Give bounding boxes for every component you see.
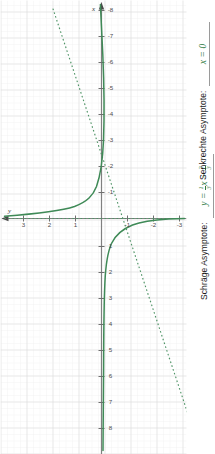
svg-text:8: 8: [108, 424, 112, 431]
svg-text:-7: -7: [107, 32, 113, 39]
svg-text:1: 1: [73, 221, 77, 228]
svg-text:-5: -5: [107, 84, 113, 91]
svg-text:-1: -1: [124, 221, 130, 228]
svg-text:-8: -8: [107, 6, 113, 13]
oblique-asymptote-label: Schräge Asymptote:: [199, 222, 209, 300]
x-axis-label-text: x: [90, 5, 95, 13]
plot-area: 8 7 6 5 4 3 2 1 -1 -2 -3 -4 -5 -6 -7 -8: [0, 0, 186, 454]
svg-text:1: 1: [108, 242, 112, 249]
svg-text:-2: -2: [150, 221, 156, 228]
svg-text:-1: -1: [107, 188, 113, 195]
svg-text:-2: -2: [107, 162, 113, 169]
fraction-one-third-denominator: 3: [206, 186, 213, 190]
svg-text:-3: -3: [176, 221, 182, 228]
svg-text:7: 7: [108, 398, 112, 405]
svg-text:4: 4: [108, 320, 112, 327]
x-axis-name: x: [90, 5, 95, 13]
svg-text:3: 3: [21, 221, 25, 228]
y-axis-label-text: y: [6, 207, 11, 215]
worksheet-graph-page: 8 7 6 5 4 3 2 1 -1 -2 -3 -4 -5 -6 -7 -8: [0, 0, 215, 454]
coordinate-plot: 8 7 6 5 4 3 2 1 -1 -2 -3 -4 -5 -6 -7 -8: [0, 0, 186, 454]
svg-text:-3: -3: [107, 136, 113, 143]
svg-text:3: 3: [108, 294, 112, 301]
major-gridlines: [0, 0, 186, 454]
svg-text:-4: -4: [107, 110, 113, 117]
svg-text:2: 2: [47, 221, 51, 228]
graph-stage: 8 7 6 5 4 3 2 1 -1 -2 -3 -4 -5 -6 -7 -8: [0, 0, 215, 454]
oblique-value-prefix: y =: [199, 190, 209, 206]
answer-row-vertical: Senkrechte Asymptote: x = 0: [198, 22, 210, 180]
vertical-asymptote-value: x = 0: [198, 44, 208, 65]
svg-text:-6: -6: [107, 58, 113, 65]
y-axis-name: y: [6, 207, 11, 215]
svg-text:2: 2: [108, 268, 112, 275]
svg-text:6: 6: [108, 372, 112, 379]
svg-text:5: 5: [108, 346, 112, 353]
answers-panel: Schräge Asymptote: y = 13x − 23 Senkrech…: [185, 0, 215, 454]
vertical-asymptote-label: Senkrechte Asymptote:: [198, 90, 208, 180]
vertical-asymptote-answer-blank[interactable]: x = 0: [198, 22, 210, 86]
fraction-one-third: 13: [198, 186, 212, 190]
